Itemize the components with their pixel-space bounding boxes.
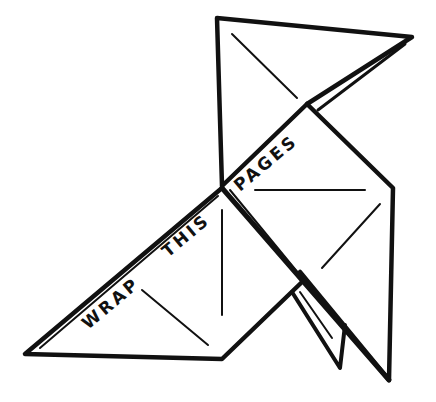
head-inner-fold <box>318 44 405 110</box>
head-crease <box>232 34 297 98</box>
body-diagonal-inner <box>230 190 345 330</box>
right-wing-crease-diagonal <box>322 204 380 268</box>
body-diagonal-fold <box>222 188 389 380</box>
leg-fold <box>292 292 345 368</box>
label-pages: PAGES <box>230 130 302 195</box>
tail-outline <box>25 188 301 359</box>
head-fold-outline <box>217 18 412 186</box>
origami-bird-illustration: WRAP THIS PAGES <box>0 0 436 402</box>
tail-lower-crease <box>142 290 208 345</box>
